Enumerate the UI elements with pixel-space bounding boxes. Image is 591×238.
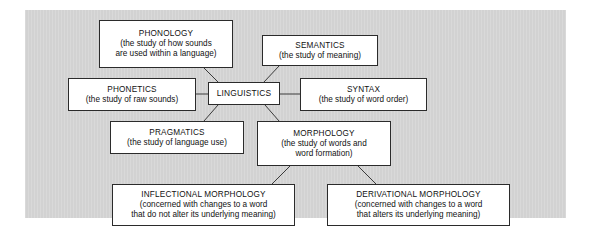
node-linguistics-title: LINGUISTICS: [217, 88, 272, 98]
node-phonology-title: PHONOLOGY: [139, 29, 193, 39]
node-phonetics[interactable]: PHONETICS (the study of raw sounds): [68, 78, 196, 111]
node-derivational-morphology-title: DERIVATIONAL MORPHOLOGY: [356, 190, 481, 200]
node-inflectional-morphology-desc: (concerned with changes to a word that d…: [131, 200, 276, 220]
node-phonetics-title: PHONETICS: [107, 85, 156, 95]
node-derivational-morphology[interactable]: DERIVATIONAL MORPHOLOGY (concerned with …: [327, 184, 510, 226]
node-syntax-desc: (the study of word order): [319, 95, 409, 105]
node-semantics-desc: (the study of meaning): [279, 51, 361, 61]
node-phonetics-desc: (the study of raw sounds): [86, 95, 178, 105]
node-inflectional-morphology[interactable]: INFLECTIONAL MORPHOLOGY (concerned with …: [112, 184, 295, 226]
node-phonology-desc: (the study of how sounds are used within…: [115, 39, 216, 59]
node-derivational-morphology-desc: (concerned with changes to a word that a…: [355, 200, 483, 220]
node-pragmatics[interactable]: PRAGMATICS (the study of language use): [110, 121, 244, 154]
node-pragmatics-desc: (the study of language use): [127, 138, 227, 148]
node-semantics-title: SEMANTICS: [295, 41, 344, 51]
node-morphology[interactable]: MORPHOLOGY (the study of words and word …: [257, 121, 391, 166]
node-morphology-desc: (the study of words and word formation): [281, 139, 367, 159]
node-inflectional-morphology-title: INFLECTIONAL MORPHOLOGY: [141, 190, 265, 200]
node-morphology-title: MORPHOLOGY: [293, 129, 354, 139]
node-pragmatics-title: PRAGMATICS: [149, 128, 204, 138]
node-linguistics[interactable]: LINGUISTICS: [208, 82, 280, 105]
node-semantics[interactable]: SEMANTICS (the study of meaning): [262, 35, 378, 66]
node-syntax-title: SYNTAX: [347, 85, 380, 95]
node-syntax[interactable]: SYNTAX (the study of word order): [300, 78, 427, 111]
node-phonology[interactable]: PHONOLOGY (the study of how sounds are u…: [99, 20, 233, 68]
linguistics-concept-map: PHONOLOGY (the study of how sounds are u…: [0, 0, 591, 238]
